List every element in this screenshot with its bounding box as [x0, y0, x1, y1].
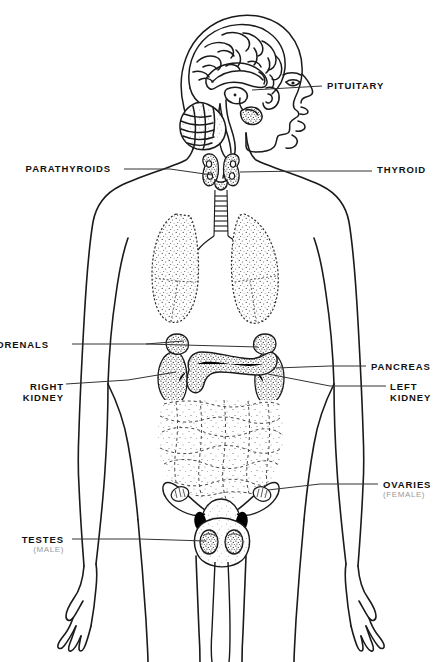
label-testes-qualifier: (MALE): [22, 545, 64, 555]
label-thyroid-text: THYROID: [377, 164, 426, 175]
label-parathyroids: PARATHYROIDS: [26, 163, 111, 174]
label-right-kidney: RIGHT KIDNEY: [23, 381, 64, 403]
label-left-kidney-line2: KIDNEY: [390, 392, 431, 403]
intestines: [158, 400, 283, 500]
label-ovaries-text: OVARIES: [383, 479, 431, 490]
label-left-kidney: LEFT KIDNEY: [390, 381, 431, 403]
label-pancreas: PANCREAS: [371, 361, 431, 372]
label-adrenals: ADRENALS: [0, 339, 49, 350]
label-testes-text: TESTES: [22, 534, 64, 545]
label-pancreas-text: PANCREAS: [371, 361, 431, 372]
label-adrenals-text: ADRENALS: [0, 339, 49, 350]
label-testes: TESTES (MALE): [22, 534, 64, 555]
label-ovaries: OVARIES (FEMALE): [383, 479, 431, 500]
adrenal-gland-left: [254, 334, 276, 354]
label-right-kidney-line2: KIDNEY: [23, 392, 64, 403]
kidney-right-organ: [158, 351, 187, 404]
label-pituitary: PITUITARY: [327, 80, 384, 91]
label-pituitary-text: PITUITARY: [327, 80, 384, 91]
anatomy-figure: [0, 0, 441, 662]
label-ovaries-qualifier: (FEMALE): [383, 490, 431, 500]
label-thyroid: THYROID: [377, 164, 426, 175]
adrenal-gland-right: [166, 334, 188, 354]
label-left-kidney-line1: LEFT: [390, 381, 417, 392]
label-parathyroids-text: PARATHYROIDS: [26, 163, 111, 174]
endocrine-diagram-page: { "figure": { "title": "Endocrine system…: [0, 0, 441, 662]
label-right-kidney-line1: RIGHT: [30, 381, 64, 392]
